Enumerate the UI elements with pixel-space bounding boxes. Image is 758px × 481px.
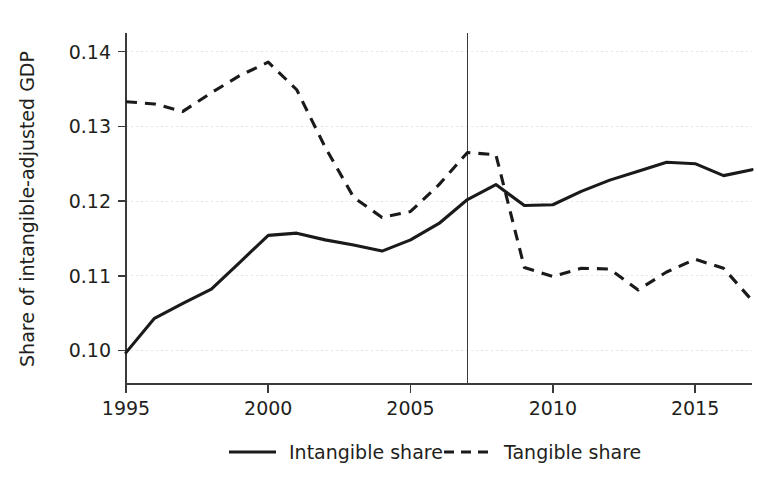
legend-label-tangible-share: Tangible share: [503, 441, 641, 463]
y-tick-label-4: 0.14: [69, 41, 111, 63]
x-tick-label-4: 2015: [671, 397, 719, 419]
chart-figure: 0.100.110.120.130.14 1995200020052010201…: [0, 0, 758, 481]
y-tick-label-2: 0.12: [69, 190, 111, 212]
line-chart: 0.100.110.120.130.14 1995200020052010201…: [0, 0, 758, 481]
y-tick-label-1: 0.11: [69, 265, 111, 287]
x-tick-label-2: 2005: [386, 397, 434, 419]
series-line-tangible-share: [126, 62, 752, 300]
y-tick-label-3: 0.13: [69, 115, 111, 137]
x-tick-label-1: 2000: [244, 397, 292, 419]
y-axis-ticks: 0.100.110.120.130.14: [69, 41, 126, 362]
x-tick-label-3: 2010: [529, 397, 577, 419]
data-series-group: [126, 62, 752, 353]
legend-label-intangible-share: Intangible share: [289, 441, 443, 463]
x-tick-label-0: 1995: [102, 397, 150, 419]
gridlines: [126, 52, 752, 351]
x-axis-ticks: 19952000200520102015: [102, 384, 719, 419]
chart-legend: Intangible shareTangible share: [229, 441, 641, 463]
y-axis-title: Share of intangible-adjusted GDP: [16, 51, 38, 367]
series-line-intangible-share: [126, 162, 752, 352]
y-tick-label-0: 0.10: [69, 339, 111, 361]
